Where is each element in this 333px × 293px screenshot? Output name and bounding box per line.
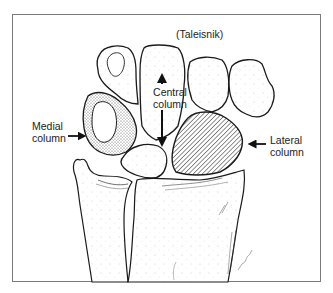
radius-bone <box>128 170 245 282</box>
central-column-label-line1: Central <box>148 86 192 98</box>
lateral-column-label: Lateral column <box>270 134 304 158</box>
scaphoid-bone <box>172 112 242 175</box>
lateral-column-label-line1: Lateral <box>270 134 304 146</box>
figure-caption: (Taleisnik) <box>176 28 223 40</box>
diagram-canvas: (Taleisnik) Central column Medial column… <box>0 0 333 293</box>
medial-column-label-line1: Medial <box>32 120 66 132</box>
medial-column-label: Medial column <box>32 120 66 144</box>
central-column-label: Central column <box>148 86 192 110</box>
artist-signature <box>238 250 252 270</box>
lateral-column-label-line2: column <box>270 146 304 158</box>
medial-column-label-line2: column <box>32 132 66 144</box>
trapezoid-bone <box>188 57 229 112</box>
trapezium-bone <box>229 60 274 117</box>
ulna-bone <box>73 159 132 282</box>
pisiform-bone <box>92 102 117 143</box>
central-column-label-line2: column <box>148 98 192 110</box>
